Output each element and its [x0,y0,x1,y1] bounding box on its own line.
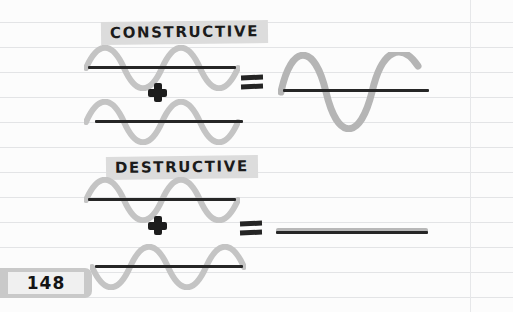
constructive-input-axis-2 [95,120,243,123]
rule-line [0,147,513,148]
rule-line [0,72,513,73]
destructive-input-axis-2 [95,265,243,268]
rule-line [0,122,513,123]
destructive-result-flat-line [276,228,428,237]
notebook-page: CONSTRUCTIVE DESTRUCTIVE [0,0,513,312]
plus-operator-destructive [148,216,167,235]
section-heading-constructive: CONSTRUCTIVE [101,20,268,45]
equals-operator-destructive [240,220,262,236]
equals-operator-constructive [241,74,263,90]
constructive-result-wave [278,52,430,132]
destructive-input-axis-1 [88,198,236,201]
constructive-input-axis-1 [88,66,236,69]
margin-line [470,0,471,312]
rule-line [0,247,513,248]
rule-line [0,97,513,98]
page-number-label: 148 [0,269,92,297]
rule-line [0,197,513,198]
constructive-result-axis [283,89,429,92]
rule-line [0,47,513,48]
